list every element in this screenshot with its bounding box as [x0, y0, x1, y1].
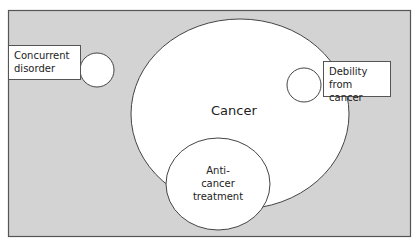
debility-circle [287, 68, 321, 102]
anti-cancer-treatment-label: Anti- cancer treatment [178, 164, 258, 203]
concurrent-disorder-line2: disorder [14, 62, 75, 75]
concurrent-disorder-line1: Concurrent [14, 49, 75, 62]
debility-line2: from cancer [329, 78, 385, 104]
concurrent-disorder-circle [80, 53, 114, 87]
cancer-label: Cancer [211, 103, 257, 118]
diagram-canvas [0, 0, 420, 244]
treatment-line2: cancer [178, 177, 258, 190]
treatment-line3: treatment [178, 190, 258, 203]
debility-line1: Debility [329, 65, 385, 78]
concurrent-disorder-box: Concurrent disorder [8, 45, 81, 80]
debility-box: Debility from cancer [323, 61, 391, 97]
treatment-line1: Anti- [178, 164, 258, 177]
